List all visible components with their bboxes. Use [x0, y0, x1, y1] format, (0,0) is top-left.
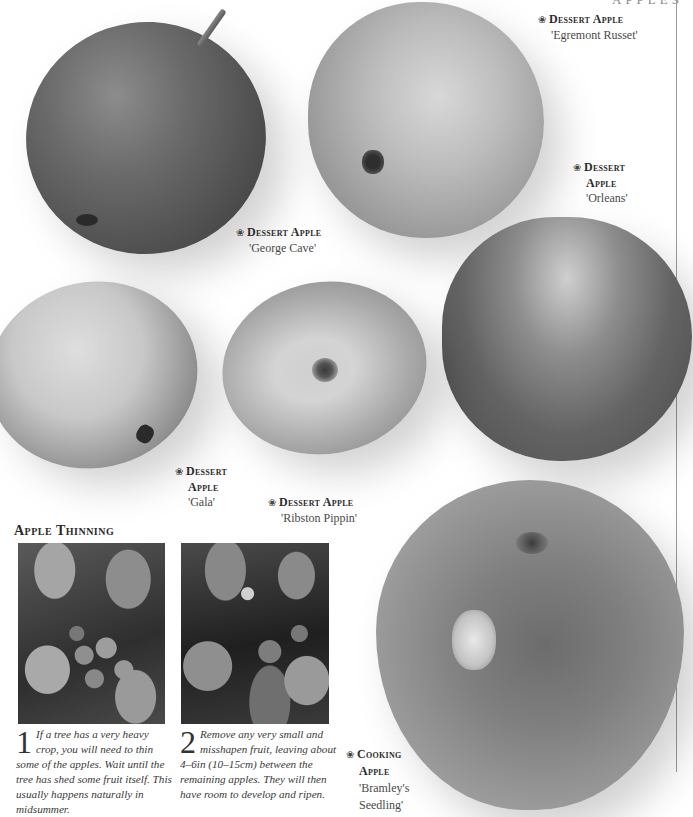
caption-variety: 'Orleans' [586, 191, 628, 205]
caption-bramleys-seedling: ❀Cooking Apple 'Bramley's Seedling' [346, 745, 409, 813]
caption-egremont-russet: ❀Dessert Apple 'Egremont Russet' [538, 11, 638, 42]
caption-type: Dessert Apple [247, 225, 321, 239]
caption-variety: 'Gala' [188, 495, 215, 509]
running-head: APPLES [612, 0, 683, 8]
caption-variety: 'George Cave' [249, 241, 316, 255]
apple-orleans-photo [442, 217, 692, 461]
apple-bramleys-seedling-photo [376, 480, 684, 810]
thinning-photo-thinned-fruit [181, 543, 329, 724]
thinning-step-2: 2 Remove any very small and misshapen fr… [180, 727, 340, 802]
flower-icon: ❀ [538, 14, 546, 25]
caption-type: Dessert [584, 160, 625, 174]
caption-variety: 'Bramley's [359, 781, 409, 795]
apple-calyx [362, 150, 384, 174]
caption-type: Dessert [186, 464, 227, 478]
caption-type: Apple [359, 764, 390, 778]
section-title: Apple Thinning [14, 523, 114, 539]
caption-orleans: ❀Dessert Apple 'Orleans' [573, 159, 628, 205]
caption-type: Cooking [357, 747, 402, 761]
caption-type: Apple [188, 480, 219, 494]
caption-type: Apple [586, 176, 617, 190]
flower-icon: ❀ [573, 162, 581, 173]
caption-variety: Seedling' [359, 798, 403, 812]
caption-gala: ❀Dessert Apple 'Gala' [175, 463, 227, 509]
apple-highlight [452, 610, 496, 670]
apple-gala-photo [0, 262, 215, 488]
caption-variety: 'Egremont Russet' [551, 28, 638, 42]
step-text: Remove any very small and misshapen frui… [180, 728, 336, 800]
caption-george-cave: ❀Dessert Apple 'George Cave' [236, 224, 321, 255]
apple-eye [516, 532, 548, 554]
apple-egremont-russet-photo [308, 2, 544, 238]
apple-calyx [76, 214, 98, 226]
flower-icon: ❀ [268, 497, 276, 508]
caption-variety: 'Ribston Pippin' [281, 511, 357, 525]
caption-ribston-pippin: ❀Dessert Apple 'Ribston Pippin' [268, 494, 357, 525]
step-number: 1 [16, 729, 32, 755]
flower-icon: ❀ [346, 749, 354, 760]
thinning-photo-heavy-crop [18, 543, 165, 724]
thinning-step-1: 1 If a tree has a very heavy crop, you w… [16, 727, 174, 817]
step-text: If a tree has a very heavy crop, you wil… [16, 728, 172, 815]
apple-eye [312, 358, 338, 382]
flower-icon: ❀ [175, 466, 183, 477]
caption-type: Dessert Apple [549, 12, 623, 26]
step-number: 2 [180, 729, 196, 755]
caption-type: Dessert Apple [279, 495, 353, 509]
flower-icon: ❀ [236, 227, 244, 238]
